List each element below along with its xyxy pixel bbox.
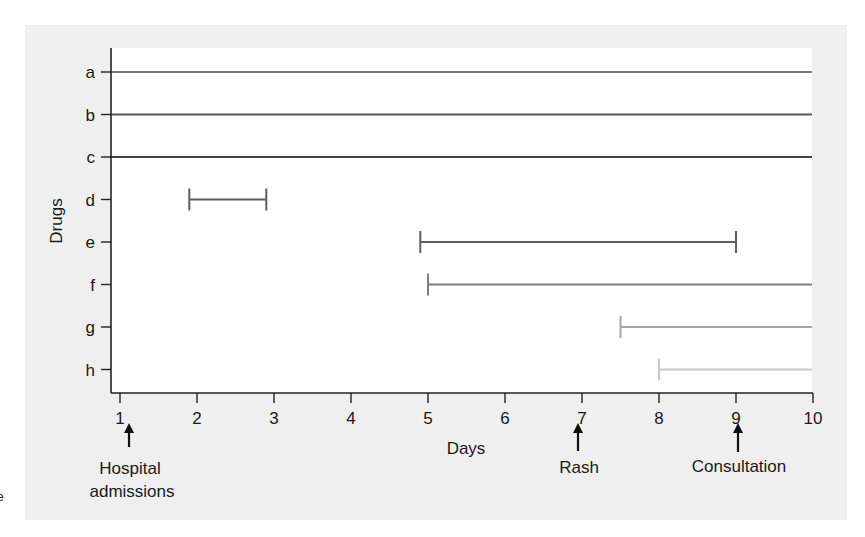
y-tick-label: a <box>86 63 96 82</box>
y-tick-label: d <box>86 191 95 210</box>
y-tick-label: f <box>90 276 95 295</box>
x-tick-label: 1 <box>115 409 124 428</box>
event-annotations: Hospital admissions Rash Consultation <box>89 423 786 501</box>
y-tick-label: h <box>86 361 95 380</box>
x-tick-label: 6 <box>500 409 509 428</box>
annotation-hospital-admissions: Hospital admissions <box>89 423 174 501</box>
drug-timeline-chart: abcdefgh 12345678910 Days Drugs Hospital… <box>0 0 865 537</box>
annotation-label: admissions <box>89 482 174 501</box>
x-axis-ticks: 12345678910 <box>115 393 822 428</box>
y-tick-label: e <box>86 233 95 252</box>
plot-area <box>111 48 812 393</box>
x-axis-label: Days <box>447 439 486 458</box>
y-tick-label: g <box>86 318 95 337</box>
x-tick-label: 10 <box>804 409 823 428</box>
x-tick-label: 3 <box>269 409 278 428</box>
annotation-label: Rash <box>559 458 599 477</box>
edge-text-fragment: e <box>0 490 4 504</box>
y-tick-label: c <box>87 148 96 167</box>
x-tick-label: 4 <box>346 409 355 428</box>
annotation-consultation: Consultation <box>692 423 787 476</box>
y-axis-label: Drugs <box>47 198 66 243</box>
annotation-rash: Rash <box>559 423 599 477</box>
y-tick-label: b <box>86 106 95 125</box>
annotation-label: Hospital <box>99 459 160 478</box>
x-tick-label: 9 <box>731 409 740 428</box>
y-axis-ticks: abcdefgh <box>86 63 111 380</box>
arrow-head-icon <box>124 423 134 433</box>
x-tick-label: 8 <box>654 409 663 428</box>
x-tick-label: 2 <box>192 409 201 428</box>
annotation-label: Consultation <box>692 457 787 476</box>
x-tick-label: 5 <box>423 409 432 428</box>
